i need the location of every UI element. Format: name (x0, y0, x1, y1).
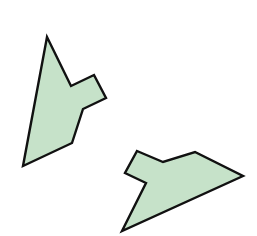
diagram-canvas (0, 0, 257, 236)
polygon-shape-right (122, 151, 243, 231)
polygon-shape-left (23, 37, 106, 166)
